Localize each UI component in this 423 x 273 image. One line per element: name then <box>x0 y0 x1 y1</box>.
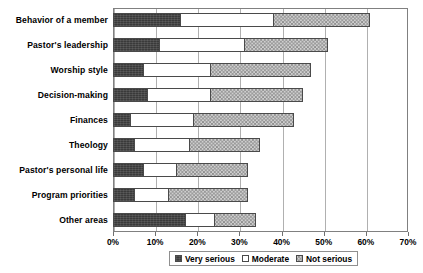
bar-segment-very-serious[interactable] <box>113 163 143 177</box>
bar-segment-not-serious[interactable] <box>193 113 294 127</box>
stacked-bar[interactable] <box>113 38 328 52</box>
chart-row: Theology <box>113 132 408 157</box>
category-label: Worship style <box>51 65 109 75</box>
x-tick-label: 70% <box>400 237 417 247</box>
stacked-bar-chart: Behavior of a memberPastor's leadershipW… <box>0 0 423 273</box>
chart-row: Finances <box>113 108 408 133</box>
bar-segment-moderate[interactable] <box>143 63 210 77</box>
x-tick-mark <box>282 232 283 236</box>
category-label: Theology <box>69 140 108 150</box>
legend-label: Moderate <box>252 254 289 264</box>
bar-segment-very-serious[interactable] <box>113 213 185 227</box>
bar-segment-very-serious[interactable] <box>113 63 143 77</box>
legend-label: Not serious <box>306 254 352 264</box>
category-label: Pastor's personal life <box>19 165 108 175</box>
x-tick-label: 10% <box>147 237 164 247</box>
bar-segment-moderate[interactable] <box>134 188 168 202</box>
legend-label: Very serious <box>185 254 235 264</box>
chart-row: Behavior of a member <box>113 8 408 33</box>
category-label: Behavior of a member <box>16 15 108 25</box>
chart-row: Pastor's personal life <box>113 157 408 182</box>
category-label: Other areas <box>59 215 108 225</box>
stacked-bar[interactable] <box>113 138 260 152</box>
legend-item[interactable]: Not serious <box>296 254 352 264</box>
bar-segment-very-serious[interactable] <box>113 188 134 202</box>
stacked-bar[interactable] <box>113 113 294 127</box>
category-label: Pastor's leadership <box>27 40 108 50</box>
bar-segment-very-serious[interactable] <box>113 113 130 127</box>
stacked-bar[interactable] <box>113 13 370 27</box>
chart-legend: Very seriousModerateNot serious <box>169 251 358 266</box>
x-tick-mark <box>155 232 156 236</box>
bar-segment-not-serious[interactable] <box>168 188 248 202</box>
bar-segment-very-serious[interactable] <box>113 38 159 52</box>
bar-segment-not-serious[interactable] <box>210 88 303 102</box>
bar-segment-very-serious[interactable] <box>113 88 147 102</box>
bar-segment-not-serious[interactable] <box>273 13 370 27</box>
bar-segment-moderate[interactable] <box>147 88 210 102</box>
category-label: Program priorities <box>32 190 108 200</box>
bar-segment-moderate[interactable] <box>134 138 189 152</box>
legend-item[interactable]: Very serious <box>175 254 235 264</box>
x-tick-label: 60% <box>357 237 374 247</box>
category-label: Decision-making <box>38 90 108 100</box>
x-axis: 0%10%20%30%40%50%60%70% <box>113 232 408 250</box>
x-tick-mark <box>113 232 114 236</box>
bar-rows: Behavior of a memberPastor's leadershipW… <box>113 8 408 232</box>
chart-row: Worship style <box>113 58 408 83</box>
very-serious-swatch <box>175 255 182 262</box>
category-label: Finances <box>70 115 108 125</box>
stacked-bar[interactable] <box>113 163 248 177</box>
bar-segment-not-serious[interactable] <box>210 63 311 77</box>
chart-row: Program priorities <box>113 182 408 207</box>
stacked-bar[interactable] <box>113 188 248 202</box>
x-tick-label: 20% <box>189 237 206 247</box>
bar-segment-very-serious[interactable] <box>113 13 180 27</box>
x-tick-mark <box>324 232 325 236</box>
stacked-bar[interactable] <box>113 213 256 227</box>
bar-segment-not-serious[interactable] <box>244 38 328 52</box>
bar-segment-not-serious[interactable] <box>189 138 261 152</box>
x-tick-mark <box>239 232 240 236</box>
bar-segment-moderate[interactable] <box>180 13 273 27</box>
stacked-bar[interactable] <box>113 63 311 77</box>
x-tick-mark <box>197 232 198 236</box>
bar-segment-not-serious[interactable] <box>176 163 248 177</box>
x-tick-mark <box>408 232 409 236</box>
bar-segment-very-serious[interactable] <box>113 138 134 152</box>
chart-row: Pastor's leadership <box>113 33 408 58</box>
stacked-bar[interactable] <box>113 88 303 102</box>
moderate-swatch <box>242 255 249 262</box>
bar-segment-moderate[interactable] <box>143 163 177 177</box>
x-tick-label: 30% <box>231 237 248 247</box>
bar-segment-moderate[interactable] <box>159 38 243 52</box>
x-tick-mark <box>366 232 367 236</box>
chart-row: Other areas <box>113 207 408 232</box>
x-tick-label: 50% <box>315 237 332 247</box>
chart-row: Decision-making <box>113 83 408 108</box>
bar-segment-moderate[interactable] <box>185 213 215 227</box>
legend-item[interactable]: Moderate <box>242 254 289 264</box>
x-tick-label: 40% <box>273 237 290 247</box>
not-serious-swatch <box>296 255 303 262</box>
bar-segment-not-serious[interactable] <box>214 213 256 227</box>
bar-segment-moderate[interactable] <box>130 113 193 127</box>
x-tick-label: 0% <box>107 237 119 247</box>
